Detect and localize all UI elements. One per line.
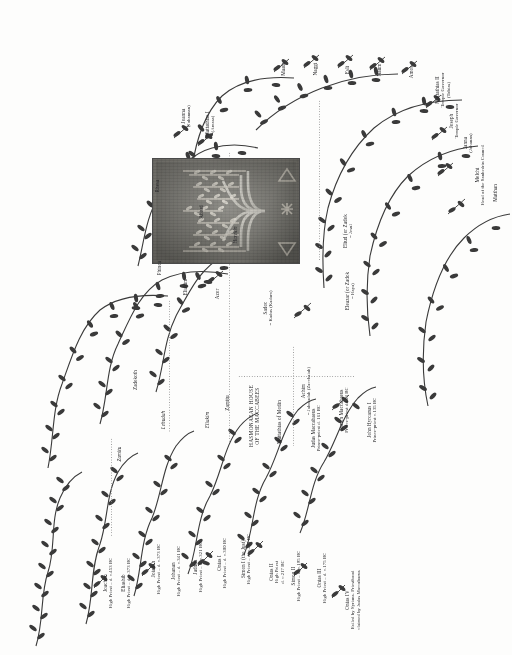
node-mattathias-i-sub: (Amasa) (210, 92, 216, 156)
node-nelpiah: Eliakim (204, 390, 210, 450)
node-mattathias-modin: Mattathias of Modin (276, 384, 282, 460)
node-johanan-sub: High Priest – d. c.341 BC (176, 534, 182, 608)
node-sadoc-sub: = Kadus (Kadam) (268, 272, 274, 344)
node-naggi: Naggi (312, 44, 318, 94)
node-abiud: Abiud (198, 186, 204, 238)
node-phinca: Phinca (156, 240, 162, 296)
node-simon-ii: Simon II High Priest – d. c.195 BC (290, 536, 302, 616)
vine-sprig-matthan (446, 196, 468, 216)
node-joiadah-sub: High Priest – d. c.373 BC (156, 532, 162, 606)
node-abiud-name: Abiud (198, 186, 204, 238)
node-naum: Naum (376, 46, 382, 94)
node-nefnah-name: Zamitu (224, 370, 230, 436)
node-simon-ii-sub: High Priest – d. c.195 BC (296, 536, 302, 616)
node-joanna-sub: (Johannan) (186, 84, 192, 148)
node-achim-sub: = Jahoiadah (Zacchaiah) (306, 352, 312, 430)
node-matthan-name: Matthan (492, 166, 498, 220)
node-melchi: Melchi Head of the Sanhedrin Council (474, 120, 486, 230)
node-eleazar-zadok: Eleazar (or Zadok = Haya) (344, 252, 356, 330)
node-onias-ii: Onias II High Priest d. c.217 BC (268, 542, 285, 602)
node-lehudah: Lehudah (160, 392, 166, 448)
node-esli: Esli (344, 48, 350, 92)
node-achim: Achim = Jahoiadah (Zacchaiah) (300, 352, 312, 430)
node-joiadah: Joiadah High Priest – d. c.373 BC (150, 532, 162, 606)
node-amos: Amos (408, 48, 414, 96)
node-simon-maccabaeus-sub: Prince-priest d.143 BC (344, 368, 350, 452)
node-eleazar-zadok-sub: = Haya) (350, 252, 356, 330)
node-nelpiah-name: Eliakim (204, 390, 210, 450)
hasmonaean-heading: HASMONAEAN HOUSE OF THE MACCABEES (248, 366, 261, 466)
node-onias-iv-sub2: claimed by Judas Maccabaeus (356, 552, 362, 648)
node-eliashib-sub: High Priest – d. c.373 BC (126, 546, 132, 620)
vine-sprig-melchi (436, 160, 456, 178)
node-joanna: Joanna (Johannan) (180, 84, 192, 148)
node-eliashib: Eliashib High Priest – d. c.373 BC (120, 546, 132, 620)
node-joachim: Joachim High Priest – d. c.453 BC (102, 546, 114, 620)
node-zamitu-name: Zamitu (116, 428, 122, 480)
node-rhesa: Rhesa (154, 160, 160, 212)
node-jaddua-sub: High Priest – d. c.321 BC (198, 530, 204, 604)
node-hezekin-name: Hezekin (232, 208, 238, 262)
node-joseph: Joseph Temple Governor (448, 86, 460, 156)
node-onias-i-sub: High Priest – d. c.300 BC (222, 526, 228, 600)
node-john-hyrcanus: John Hyrcanus I Prince-priest c.135 BC (366, 378, 378, 462)
node-mattathias-i: Mattathias I (Amasa) (204, 92, 216, 156)
node-zadekoth-name: Zadekoth (132, 350, 138, 410)
node-phinca-name: Phinca (156, 240, 162, 296)
node-judas-maccabaeus: Judas Maccabaeus Prince-priest d. 161 BC (310, 386, 322, 470)
node-onias-iv: Onias IV Exiled by Syrians. Priesthood c… (344, 552, 361, 648)
hasmonaean-heading-line2: OF THE MACCABEES (254, 366, 260, 466)
menorah-engraving (152, 158, 300, 264)
connector-nefnah (292, 346, 295, 446)
node-naggi-name: Naggi (312, 44, 318, 94)
node-onias-iii-sub: High Priest – d. c.175 BC (322, 538, 328, 618)
connector-mattathias2 (318, 100, 321, 260)
connector-zadekoth (110, 438, 113, 536)
node-azor-name: Azor (214, 268, 220, 320)
node-simon-i: Simon I (the Just) High Priest – d. c.29… (240, 516, 252, 602)
node-naum-name: Naum (376, 46, 382, 94)
node-azor: Azor (214, 268, 220, 320)
node-janna: Janna (Johanan) (462, 112, 474, 174)
node-nefnah: Zamitu (224, 370, 230, 436)
connector-eliakim (168, 300, 171, 432)
node-sadoc: Sadoc = Kadus (Kadam) (262, 272, 274, 344)
node-joseph-sub: Temple Governor (454, 86, 460, 156)
node-amos-name: Amos (408, 48, 414, 96)
node-judas-maccabaeus-sub: Prince-priest d. 161 BC (316, 386, 322, 470)
node-onias-iii: Onias III High Priest – d. c.175 BC (316, 538, 328, 618)
node-zadekoth: Zadekoth (132, 350, 138, 410)
node-hezekin: Hezekin (232, 208, 238, 262)
node-onias-i: Onias I High Priest – d. c.300 BC (216, 526, 228, 600)
node-eliakim-name: Eliakim (182, 258, 188, 316)
node-jaddua: Jaddua High Priest – d. c.321 BC (192, 530, 204, 604)
node-melchi-sub: Head of the Sanhedrin Council (480, 120, 486, 230)
node-maath-name: Maath (280, 44, 286, 94)
node-janna-sub: (Johanan) (468, 112, 474, 174)
node-esli-name: Esli (344, 48, 350, 92)
node-lehudah-name: Lehudah (160, 392, 166, 448)
node-matthan: Matthan (492, 166, 498, 220)
node-simon-i-sub: High Priest – d. c.291 BC (246, 516, 252, 602)
genealogy-chart: Joachim High Priest – d. c.453 BC Eliash… (0, 0, 512, 655)
node-eliakim: Eliakim (182, 258, 188, 316)
node-onias-ii-sub2: d. c.217 BC (280, 542, 286, 602)
node-mattathias-modin-name: Mattathias of Modin (276, 384, 282, 460)
node-johanan: Johanan High Priest – d. c.341 BC (170, 534, 182, 608)
vine-branch-far-right (416, 210, 512, 410)
vine-sprig-sadoc (292, 300, 314, 320)
node-simon-maccabaeus: Simon Maccabaeus Prince-priest d.143 BC (338, 368, 350, 452)
node-joachim-sub: High Priest – d. c.453 BC (108, 546, 114, 620)
node-maath: Maath (280, 44, 286, 94)
node-zamitu: Zamitu (116, 428, 122, 480)
node-rhesa-name: Rhesa (154, 160, 160, 212)
node-john-hyrcanus-sub: Prince-priest c.135 BC (372, 378, 378, 462)
